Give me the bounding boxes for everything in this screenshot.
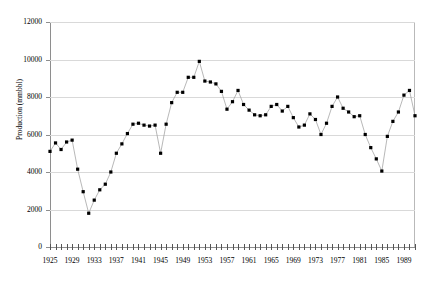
y-tick-label: 2000 <box>2 206 42 214</box>
y-tick-label: 12000 <box>2 18 42 26</box>
y-axis-label: Production (mmbbl) <box>15 50 24 170</box>
x-tick-mark <box>260 244 261 250</box>
x-tick-mark <box>177 244 178 250</box>
x-tick-mark <box>238 244 239 250</box>
x-tick-mark <box>194 244 195 250</box>
x-tick-mark <box>78 244 79 250</box>
x-tick-mark <box>293 244 294 250</box>
x-tick-mark <box>127 244 128 250</box>
x-tick-mark <box>409 244 410 250</box>
x-tick-mark <box>255 244 256 250</box>
gridline <box>50 22 415 23</box>
chart-container: 020004000600080001000012000 192519291933… <box>0 0 436 286</box>
x-tick-mark <box>72 244 73 250</box>
x-tick-mark <box>288 244 289 250</box>
x-tick-mark <box>233 244 234 250</box>
x-tick-mark <box>116 244 117 250</box>
y-tick-mark <box>46 97 50 98</box>
x-tick-mark <box>310 244 311 250</box>
x-tick-mark <box>332 244 333 250</box>
gridline <box>50 210 415 211</box>
x-tick-mark <box>315 244 316 250</box>
y-tick-label: 0 <box>2 243 42 251</box>
x-tick-mark <box>304 244 305 250</box>
x-tick-mark <box>105 244 106 250</box>
x-tick-mark <box>166 244 167 250</box>
x-tick-mark <box>210 244 211 250</box>
x-tick-mark <box>398 244 399 250</box>
x-tick-mark <box>188 244 189 250</box>
x-tick-mark <box>371 244 372 250</box>
x-tick-label: 1989 <box>389 256 419 265</box>
x-tick-mark <box>249 244 250 250</box>
x-tick-mark <box>111 244 112 250</box>
x-tick-mark <box>50 244 51 250</box>
y-tick-mark <box>46 60 50 61</box>
gridline <box>50 172 415 173</box>
x-tick-mark <box>100 244 101 250</box>
x-tick-mark <box>155 244 156 250</box>
x-tick-mark <box>67 244 68 250</box>
x-tick-mark <box>83 244 84 250</box>
x-tick-mark <box>282 244 283 250</box>
y-tick-mark <box>46 172 50 173</box>
x-tick-mark <box>122 244 123 250</box>
x-tick-mark <box>365 244 366 250</box>
x-tick-mark <box>349 244 350 250</box>
x-tick-mark <box>161 244 162 250</box>
x-tick-mark <box>61 244 62 250</box>
x-tick-mark <box>144 244 145 250</box>
x-tick-mark <box>183 244 184 250</box>
x-tick-mark <box>56 244 57 250</box>
gridline <box>50 60 415 61</box>
x-tick-mark <box>133 244 134 250</box>
x-tick-mark <box>415 244 416 250</box>
x-tick-mark <box>321 244 322 250</box>
x-tick-mark <box>343 244 344 250</box>
y-tick-mark <box>46 210 50 211</box>
x-tick-mark <box>89 244 90 250</box>
x-tick-mark <box>138 244 139 250</box>
x-tick-mark <box>205 244 206 250</box>
x-tick-mark <box>327 244 328 250</box>
x-tick-mark <box>393 244 394 250</box>
x-tick-mark <box>221 244 222 250</box>
y-tick-mark <box>46 135 50 136</box>
x-tick-mark <box>376 244 377 250</box>
x-tick-mark <box>404 244 405 250</box>
y-tick-mark <box>46 22 50 23</box>
x-tick-mark <box>354 244 355 250</box>
gridline <box>50 135 415 136</box>
x-tick-mark <box>172 244 173 250</box>
x-tick-mark <box>94 244 95 250</box>
x-tick-mark <box>277 244 278 250</box>
x-tick-mark <box>338 244 339 250</box>
gridline <box>50 97 415 98</box>
x-tick-mark <box>360 244 361 250</box>
x-tick-mark <box>216 244 217 250</box>
x-tick-mark <box>227 244 228 250</box>
x-tick-mark <box>244 244 245 250</box>
x-tick-mark <box>266 244 267 250</box>
x-tick-mark <box>382 244 383 250</box>
x-tick-mark <box>299 244 300 250</box>
x-tick-mark <box>271 244 272 250</box>
x-tick-mark <box>387 244 388 250</box>
x-tick-mark <box>150 244 151 250</box>
x-tick-mark <box>199 244 200 250</box>
